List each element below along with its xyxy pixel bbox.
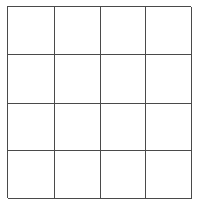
grid-cell [101,55,146,104]
grid-cell [55,104,101,151]
grid-cell [101,7,146,55]
grid-cell [8,104,55,151]
grid-cell [146,55,192,104]
grid-cell [146,7,192,55]
grid-cell [55,7,101,55]
grid-cell [8,151,55,199]
grid-cell [146,104,192,151]
grid-cell [8,7,55,55]
grid-cell [146,151,192,199]
grid-board [7,6,191,198]
grid-cell [101,104,146,151]
grid-cell [55,55,101,104]
grid-cell [55,151,101,199]
canvas [0,0,204,207]
grid-cell [8,55,55,104]
grid-cell [101,151,146,199]
